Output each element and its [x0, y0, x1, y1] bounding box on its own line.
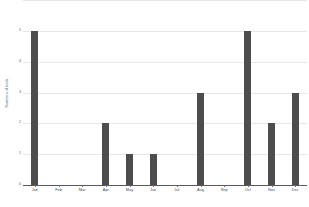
- bar-slot: [94, 0, 118, 185]
- x-tick-label-oct: Oct: [245, 188, 251, 192]
- x-tick-label-dec: Dec: [292, 188, 299, 192]
- x-tick-label-apr: Apr: [103, 188, 109, 192]
- bar-oct[interactable]: [244, 31, 251, 185]
- bar-aug[interactable]: [197, 93, 204, 186]
- x-tick-label-sep: Sep: [221, 188, 228, 192]
- bar-may[interactable]: [126, 154, 133, 185]
- y-tick-label: 6: [19, 0, 21, 2]
- bar-apr[interactable]: [102, 123, 109, 185]
- y-tick-label: 2: [19, 121, 21, 125]
- bar-jun[interactable]: [150, 154, 157, 185]
- bar-slot: [165, 0, 189, 185]
- bar-slot: [118, 0, 142, 185]
- bar-slot: [47, 0, 71, 185]
- x-tick-label-may: May: [126, 188, 133, 192]
- bar-dec[interactable]: [292, 93, 299, 186]
- y-tick-label: 3: [19, 91, 21, 95]
- y-tick-label: 1: [19, 152, 21, 156]
- bar-nov[interactable]: [268, 123, 275, 185]
- bars-layer: [23, 0, 307, 185]
- x-tick-label-mar: Mar: [79, 188, 86, 192]
- y-tick-label: 5: [19, 29, 21, 33]
- x-tick-label-jan: Jan: [32, 188, 38, 192]
- bar-slot: [260, 0, 284, 185]
- bar-chart: Numbers of birds 0123456 JanFebMarAprMay…: [0, 0, 309, 207]
- bar-slot: [23, 0, 47, 185]
- y-axis-tick-labels: 0123456: [10, 0, 22, 185]
- bar-slot: [212, 0, 236, 185]
- bar-jan[interactable]: [31, 31, 38, 185]
- x-tick-label-jun: Jun: [150, 188, 156, 192]
- x-tick-label-feb: Feb: [55, 188, 62, 192]
- bar-slot: [236, 0, 260, 185]
- bar-slot: [70, 0, 94, 185]
- bar-slot: [141, 0, 165, 185]
- bar-slot: [189, 0, 213, 185]
- bar-slot: [283, 0, 307, 185]
- y-tick-label: 4: [19, 60, 21, 64]
- plot-area: [23, 0, 307, 185]
- x-axis-tick-labels: JanFebMarAprMayJunJulAugSepOctNovDec: [0, 185, 309, 207]
- x-tick-label-nov: Nov: [268, 188, 275, 192]
- x-tick-label-aug: Aug: [197, 188, 204, 192]
- x-tick-label-jul: Jul: [174, 188, 179, 192]
- y-axis-title-text: Numbers of birds: [5, 78, 9, 107]
